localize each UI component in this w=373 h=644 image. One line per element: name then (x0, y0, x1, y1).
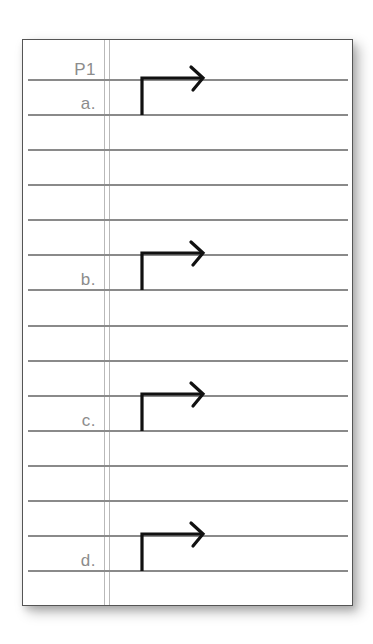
worksheet-card: P1 a. b. c. d. (22, 39, 353, 606)
bent-right-arrow-icon-d (23, 40, 354, 607)
